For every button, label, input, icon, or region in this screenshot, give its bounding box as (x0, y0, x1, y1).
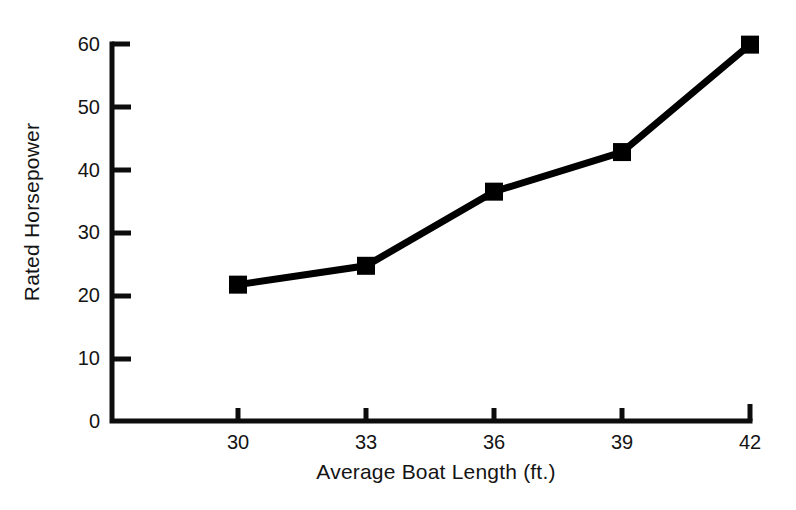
data-point-marker (229, 276, 247, 294)
series-markers (229, 36, 759, 294)
series-line (238, 45, 750, 285)
data-point-marker (485, 183, 503, 201)
data-point-marker (357, 257, 375, 275)
data-series-rated-horsepower (229, 36, 759, 294)
axis-spine-path (112, 44, 750, 421)
chart-figure: Rated Horsepower 60 50 40 30 20 10 0 30 … (0, 0, 796, 510)
axis-spines (112, 44, 750, 421)
data-point-marker (613, 143, 631, 161)
plot-area (0, 0, 796, 510)
y-axis-ticks (112, 107, 131, 359)
data-point-marker (741, 36, 759, 54)
